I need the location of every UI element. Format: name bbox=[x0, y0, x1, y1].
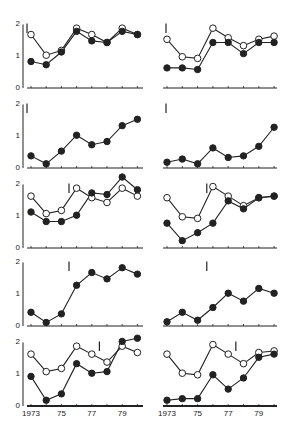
filled-data-point bbox=[256, 143, 262, 149]
open-data-point bbox=[73, 185, 80, 192]
open-data-point bbox=[194, 215, 201, 222]
panel-r4-c1: 1973757779 bbox=[158, 341, 277, 418]
filled-data-point bbox=[28, 373, 34, 379]
filled-data-point bbox=[164, 65, 170, 71]
y-tick-label: 0 bbox=[16, 163, 21, 172]
open-data-point bbox=[179, 53, 186, 60]
open-data-point bbox=[104, 359, 111, 366]
open-data-point bbox=[119, 185, 126, 192]
filled-data-point bbox=[104, 39, 110, 45]
filled-data-point bbox=[225, 198, 231, 204]
open-data-point bbox=[28, 351, 35, 358]
filled-data-point bbox=[179, 309, 185, 315]
y-tick-label: 2 bbox=[16, 337, 21, 346]
open-data-point bbox=[134, 349, 141, 356]
filled-data-point bbox=[256, 39, 262, 45]
filled-data-point bbox=[119, 265, 125, 271]
filled-data-point bbox=[89, 269, 95, 275]
filled-data-point bbox=[194, 317, 200, 323]
filled-data-point bbox=[240, 298, 246, 304]
filled-data-point bbox=[164, 319, 170, 325]
open-data-point bbox=[134, 193, 141, 200]
y-tick-label: 0 bbox=[16, 321, 21, 330]
filled-data-point bbox=[164, 397, 170, 403]
filled-data-point bbox=[119, 174, 125, 180]
open-data-point bbox=[164, 36, 171, 43]
filled-data-point bbox=[225, 386, 231, 392]
x-tick-label: 77 bbox=[87, 409, 96, 418]
filled-data-point bbox=[89, 190, 95, 196]
open-data-point bbox=[179, 370, 186, 377]
x-tick-label: 79 bbox=[118, 409, 127, 418]
filled-data-point bbox=[210, 372, 216, 378]
panel-r0-c0: 012 bbox=[16, 19, 143, 92]
panel-r3-c0: 012 bbox=[16, 257, 143, 330]
filled-data-point bbox=[194, 66, 200, 72]
panel-r1-c0: 012 bbox=[16, 99, 143, 172]
filled-data-point bbox=[73, 360, 79, 366]
open-data-point bbox=[89, 351, 96, 358]
x-tick-label: 1973 bbox=[22, 409, 40, 418]
open-data-point bbox=[104, 199, 111, 206]
filled-data-point bbox=[210, 39, 216, 45]
filled-data-point bbox=[240, 153, 246, 159]
y-tick-label: 2 bbox=[16, 19, 21, 28]
open-data-point bbox=[164, 194, 171, 201]
y-tick-label: 0 bbox=[16, 243, 21, 252]
filled-data-point bbox=[89, 370, 95, 376]
filled-data-point bbox=[210, 220, 216, 226]
filled-data-point bbox=[164, 159, 170, 165]
y-tick-label: 0 bbox=[16, 401, 21, 410]
filled-data-point bbox=[89, 142, 95, 148]
y-tick-label: 2 bbox=[16, 257, 21, 266]
filled-data-point bbox=[28, 153, 34, 159]
filled-data-point bbox=[28, 309, 34, 315]
filled-data-point bbox=[58, 148, 64, 154]
panel-r1-c1 bbox=[163, 103, 277, 168]
filled-data-point bbox=[194, 395, 200, 401]
open-data-point bbox=[271, 33, 278, 40]
open-data-point bbox=[164, 351, 171, 358]
filled-data-point bbox=[104, 191, 110, 197]
open-data-point bbox=[73, 343, 80, 350]
filled-data-point bbox=[43, 161, 49, 167]
open-data-point bbox=[28, 193, 35, 200]
filled-data-point bbox=[104, 276, 110, 282]
filled-data-point bbox=[43, 319, 49, 325]
filled-series-line bbox=[167, 288, 274, 321]
filled-data-point bbox=[271, 290, 277, 296]
filled-data-point bbox=[271, 39, 277, 45]
filled-data-point bbox=[73, 282, 79, 288]
filled-data-point bbox=[256, 285, 262, 291]
open-data-point bbox=[89, 31, 96, 38]
filled-data-point bbox=[134, 271, 140, 277]
filled-data-point bbox=[134, 335, 140, 341]
filled-data-point bbox=[164, 220, 170, 226]
filled-data-point bbox=[104, 138, 110, 144]
filled-data-point bbox=[58, 218, 64, 224]
filled-data-point bbox=[256, 354, 262, 360]
open-data-point bbox=[210, 25, 217, 32]
filled-data-point bbox=[28, 58, 34, 64]
filled-data-point bbox=[119, 28, 125, 34]
filled-data-point bbox=[73, 132, 79, 138]
open-data-point bbox=[210, 341, 217, 348]
y-tick-label: 1 bbox=[16, 211, 21, 220]
filled-data-point bbox=[179, 237, 185, 243]
filled-data-point bbox=[104, 368, 110, 374]
open-data-point bbox=[194, 371, 201, 378]
filled-series-line bbox=[167, 354, 274, 400]
x-tick-label: 79 bbox=[254, 409, 263, 418]
filled-data-point bbox=[225, 290, 231, 296]
panel-r2-c0: 012 bbox=[16, 174, 143, 252]
filled-data-point bbox=[179, 395, 185, 401]
x-tick-label: 77 bbox=[224, 409, 233, 418]
filled-series-line bbox=[31, 268, 137, 323]
y-tick-label: 1 bbox=[16, 289, 21, 298]
filled-data-point bbox=[73, 212, 79, 218]
small-multiples-figure: 01201201201201219737577791973757779 bbox=[0, 0, 295, 432]
filled-data-point bbox=[210, 145, 216, 151]
filled-data-point bbox=[194, 161, 200, 167]
x-tick-label: 75 bbox=[57, 409, 66, 418]
open-data-point bbox=[58, 365, 65, 372]
